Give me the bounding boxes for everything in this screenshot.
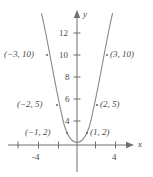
x-tick-label-neg4: -4 bbox=[32, 153, 40, 162]
y-tick-label-8: 8 bbox=[65, 73, 70, 82]
point-marker-neg1-2 bbox=[66, 132, 68, 134]
y-axis bbox=[74, 10, 81, 172]
y-tick-label-12: 12 bbox=[59, 29, 68, 38]
y-tick-label-4: 4 bbox=[65, 117, 70, 126]
point-label-neg3-10: (−3, 10) bbox=[4, 50, 34, 59]
graph-figure: 12 10 8 6 4 -4 4 y x (−3, 10) (−2, 5) (−… bbox=[0, 0, 153, 177]
point-label-1-2: (1, 2) bbox=[90, 128, 110, 137]
x-axis bbox=[8, 142, 134, 149]
point-marker-neg3-10 bbox=[46, 54, 48, 56]
y-tick-label-10: 10 bbox=[59, 51, 68, 60]
point-label-neg1-2: (−1, 2) bbox=[25, 128, 51, 137]
point-label-3-10: (3, 10) bbox=[110, 50, 134, 59]
point-marker-1-2 bbox=[86, 132, 88, 134]
parabola-plot bbox=[0, 0, 153, 177]
y-axis-arrowhead bbox=[74, 10, 80, 18]
point-label-2-5: (2, 5) bbox=[100, 100, 120, 109]
point-marker-3-10 bbox=[106, 54, 108, 56]
y-axis-name: y bbox=[83, 10, 87, 19]
point-marker-neg2-5 bbox=[56, 104, 58, 106]
point-label-neg2-5: (−2, 5) bbox=[17, 100, 43, 109]
x-axis-name: x bbox=[138, 140, 142, 149]
x-tick-label-4: 4 bbox=[112, 153, 117, 162]
point-marker-2-5 bbox=[96, 104, 98, 106]
x-axis-arrowhead bbox=[126, 142, 134, 148]
y-tick-label-6: 6 bbox=[65, 95, 70, 104]
